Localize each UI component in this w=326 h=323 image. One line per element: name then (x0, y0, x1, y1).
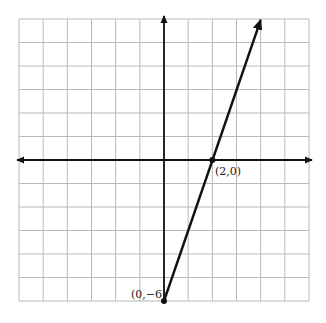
point-marker (161, 298, 167, 304)
axes (17, 16, 312, 302)
y-intercept-label: (0,−6) (131, 288, 166, 301)
x-intercept-label: (2,0) (215, 165, 241, 178)
point-marker (209, 157, 215, 163)
coordinate-plane: (2,0) (0,−6) (0, 0, 326, 323)
